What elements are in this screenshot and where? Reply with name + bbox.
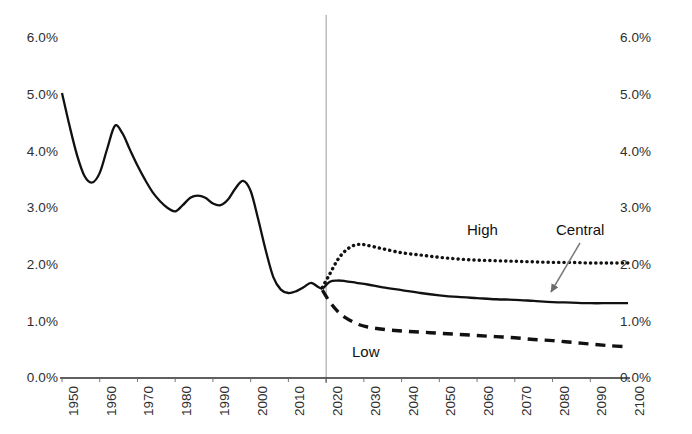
series-line-historical <box>62 93 322 293</box>
plot-area <box>0 0 692 434</box>
series-line-central <box>322 281 628 304</box>
series-lines <box>62 93 628 347</box>
central-callout-arrow <box>551 243 580 292</box>
series-line-high <box>322 244 628 287</box>
chart-container: 6.0% 5.0% 4.0% 3.0% 2.0% 1.0% 0.0% 6.0% … <box>0 0 692 434</box>
